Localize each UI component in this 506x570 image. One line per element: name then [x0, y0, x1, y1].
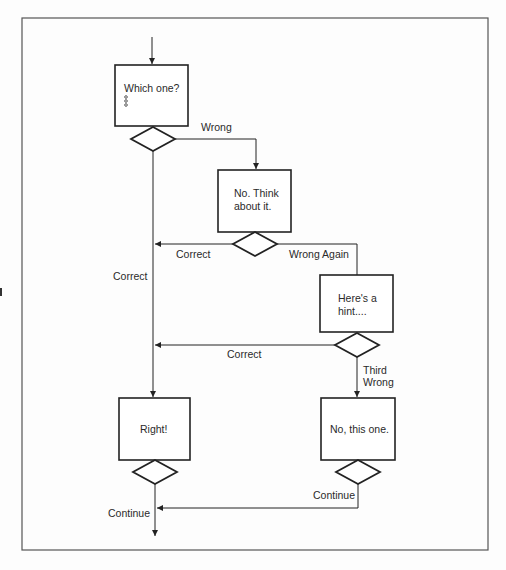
flowchart: Which one? Wrong Correct No. Think about…: [0, 0, 506, 570]
think-text-2: about it.: [234, 200, 271, 212]
think-text-1: No. Think: [234, 187, 279, 199]
correct-label-1: Correct: [176, 248, 211, 260]
decision-diamond-3: [335, 333, 379, 357]
right-text: Right!: [140, 423, 167, 435]
margin-mark: [0, 288, 2, 296]
wrong-edge: [175, 139, 256, 169]
wrong-label: Wrong: [201, 121, 232, 133]
continue-label-1: Continue: [108, 507, 150, 519]
decision-diamond-4: [133, 460, 177, 484]
answer-text: No, this one.: [330, 423, 389, 435]
decision-diamond-1: [131, 127, 175, 151]
third-wrong-label-2: Wrong: [363, 376, 394, 388]
correct-main-label: Correct: [113, 270, 148, 282]
decision-diamond-5: [336, 460, 380, 484]
diagram-frame: [22, 18, 488, 550]
hint-text-2: hint....: [338, 305, 367, 317]
continue-label-2: Continue: [313, 489, 355, 501]
decision-diamond-2: [233, 232, 277, 256]
wrong-again-label: Wrong Again: [289, 248, 349, 260]
question-text: Which one?: [124, 82, 180, 94]
correct-label-2: Correct: [227, 348, 262, 360]
hint-text-1: Here's a: [338, 292, 377, 304]
third-wrong-label-1: Third: [363, 364, 387, 376]
